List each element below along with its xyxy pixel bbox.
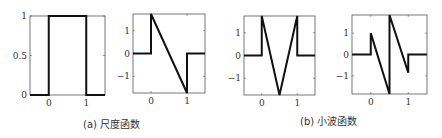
axes-frame	[30, 16, 105, 95]
subplot-1: 0100.51	[13, 11, 105, 108]
y-tick-label: 0	[124, 49, 130, 59]
x-tick-label: 0	[368, 97, 374, 107]
y-tick-label: 0	[21, 90, 27, 100]
x-tick-label: 0	[46, 98, 52, 108]
x-tick-label: 0	[148, 96, 154, 106]
caption-a: (a) 尺度函数	[83, 116, 140, 131]
y-tick-label: −1	[336, 71, 349, 81]
subplot-3: 01−101	[228, 16, 315, 108]
x-tick-label: 1	[83, 98, 89, 108]
y-tick-label: −1	[228, 73, 241, 83]
x-tick-label: 1	[294, 98, 300, 108]
function-curve	[244, 16, 315, 95]
subplot-4: 01−101	[336, 15, 427, 107]
y-tick-label: 1	[124, 26, 130, 36]
y-tick-label: 1	[343, 28, 349, 38]
y-tick-label: 0	[235, 51, 241, 61]
y-tick-label: 1	[21, 11, 27, 21]
function-curve	[352, 15, 427, 94]
y-tick-label: 0.5	[13, 51, 28, 61]
y-tick-label: 0	[343, 50, 349, 60]
y-tick-label: 1	[235, 28, 241, 38]
subplot-2: 01−101	[117, 14, 205, 106]
figure-canvas: 0100.5101−10101−10101−101	[0, 0, 442, 138]
x-tick-label: 0	[259, 98, 265, 108]
x-tick-label: 1	[184, 96, 190, 106]
y-tick-label: −1	[117, 71, 130, 81]
function-curve	[133, 14, 205, 93]
caption-b: (b) 小波函数	[300, 113, 357, 128]
x-tick-label: 1	[405, 97, 411, 107]
function-curve	[30, 16, 105, 95]
